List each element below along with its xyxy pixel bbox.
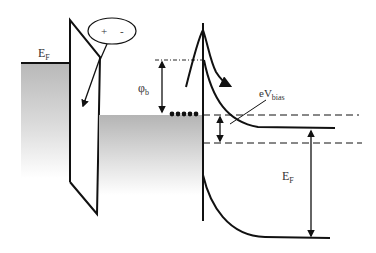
dipole-minus-sign: - xyxy=(120,25,124,37)
wave-packet-right xyxy=(203,30,230,86)
semiconductor-filled-states xyxy=(99,115,203,195)
dipole-ellipse xyxy=(88,18,136,44)
tunneling-arrow xyxy=(83,58,100,106)
semiconductor-fermi-label: EF xyxy=(282,169,294,185)
barrier-height-label: φb xyxy=(138,81,149,97)
metal-filled-states xyxy=(21,63,70,178)
dipole-tail xyxy=(100,44,107,60)
bias-leader-line xyxy=(230,100,266,124)
wave-packet-left xyxy=(186,30,203,87)
dipole-plus-sign: + xyxy=(101,25,107,37)
metal-fermi-label: EF xyxy=(38,46,50,62)
bias-label: eVbias xyxy=(259,87,285,102)
oxide-barrier xyxy=(70,20,100,214)
band-diagram: + - EF φb eVbias EF xyxy=(0,0,376,253)
